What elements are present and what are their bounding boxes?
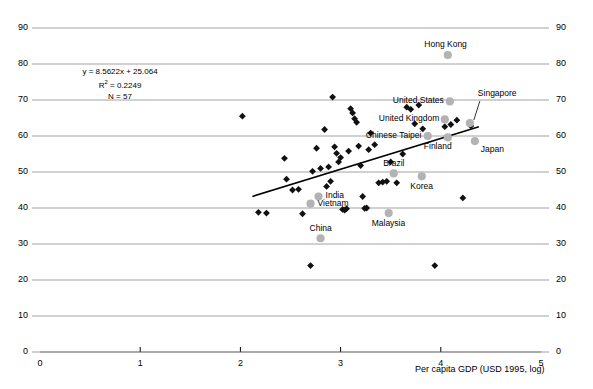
regression-equation: y = 8.5622x + 25.064: [55, 66, 185, 77]
data-point-korea: [418, 172, 426, 180]
data-point-diamond: [355, 143, 362, 150]
label-brazil: Brazil: [383, 159, 404, 168]
y-tick-left-30: 30: [6, 239, 28, 248]
data-point-diamond: [295, 186, 302, 193]
data-point-chinese-taipei: [424, 132, 432, 140]
label-korea: Korea: [410, 182, 433, 191]
data-point-diamond: [441, 123, 448, 130]
data-point-diamond: [365, 146, 372, 153]
y-tick-right-10: 10: [556, 311, 578, 320]
y-tick-left-60: 60: [6, 131, 28, 140]
data-point-hong-kong: [444, 51, 452, 59]
y-tick-right-90: 90: [556, 23, 578, 32]
y-tick-left-50: 50: [6, 167, 28, 176]
y-tick-right-0: 0: [556, 347, 578, 356]
x-tick-3: 3: [331, 359, 351, 368]
data-point-diamond: [323, 183, 330, 190]
data-point-malaysia: [385, 209, 393, 217]
data-point-diamond: [313, 145, 320, 152]
data-point-diamond: [321, 126, 328, 133]
data-point-diamond: [331, 143, 338, 150]
data-point-china: [316, 234, 324, 242]
data-point-diamond: [307, 262, 314, 269]
r-squared-line: R2 = 0.2249: [55, 77, 185, 91]
data-point-diamond: [263, 210, 270, 217]
y-tick-right-70: 70: [556, 95, 578, 104]
data-point-diamond: [289, 187, 296, 194]
x-tick-1: 1: [130, 359, 150, 368]
y-tick-left-70: 70: [6, 95, 28, 104]
label-china: China: [310, 224, 332, 233]
data-point-diamond: [459, 195, 466, 202]
data-point-diamond: [281, 155, 288, 162]
data-point-diamond: [299, 210, 306, 217]
data-point-diamond: [325, 164, 332, 171]
data-point-diamond: [317, 165, 324, 172]
regression-annotation: y = 8.5622x + 25.064 R2 = 0.2249 N = 57: [55, 66, 185, 102]
y-tick-left-20: 20: [6, 275, 28, 284]
label-united-kingdom: United Kingdom: [379, 114, 439, 123]
callout-leader-lines: [474, 101, 480, 120]
data-point-finland: [444, 133, 452, 141]
data-point-diamond: [329, 94, 336, 101]
data-point-diamond: [333, 150, 340, 157]
x-tick-2: 2: [230, 359, 250, 368]
y-tick-right-30: 30: [556, 239, 578, 248]
label-united-states: United States: [393, 96, 444, 105]
label-chinese-taipei: Chinese Taipei: [366, 131, 422, 140]
data-point-diamond: [255, 209, 262, 216]
label-malaysia: Malaysia: [372, 219, 406, 228]
y-tick-left-90: 90: [6, 23, 28, 32]
label-finland: Finland: [424, 142, 452, 151]
data-point-brazil: [390, 169, 398, 177]
y-tick-right-40: 40: [556, 203, 578, 212]
data-point-diamond: [239, 113, 246, 120]
y-tick-right-50: 50: [556, 167, 578, 176]
label-singapore: Singapore: [478, 89, 517, 98]
sample-size: N = 57: [55, 91, 185, 102]
x-axis-ticks: [140, 347, 441, 352]
y-tick-right-80: 80: [556, 59, 578, 68]
label-japan: Japan: [481, 145, 504, 154]
scatter-chart: 0102030405060708090 0102030405060708090 …: [0, 0, 593, 389]
y-tick-left-40: 40: [6, 203, 28, 212]
data-point-diamond: [393, 179, 400, 186]
x-axis-title: Per capita GDP (USD 1995, log): [415, 365, 544, 374]
data-point-diamond: [345, 148, 352, 155]
r-squared-value: = 0.2249: [108, 81, 142, 90]
data-point-diamond: [309, 168, 316, 175]
data-point-diamond: [447, 121, 454, 128]
data-point-vietnam: [306, 200, 314, 208]
data-point-japan: [471, 137, 479, 145]
data-point-united-kingdom: [441, 115, 449, 123]
y-tick-left-80: 80: [6, 59, 28, 68]
data-point-diamond: [453, 117, 460, 124]
y-tick-right-60: 60: [556, 131, 578, 140]
plot-area: [0, 0, 593, 389]
data-point-diamond: [431, 262, 438, 269]
data-point-united-states: [446, 97, 454, 105]
data-point-diamond: [371, 141, 378, 148]
data-point-diamond: [359, 193, 366, 200]
data-point-singapore: [466, 119, 474, 127]
y-tick-right-20: 20: [556, 275, 578, 284]
y-tick-left-0: 0: [6, 347, 28, 356]
data-point-diamond: [327, 178, 334, 185]
data-point-diamond: [283, 176, 290, 183]
label-vietnam: Vietnam: [318, 199, 349, 208]
label-hong-kong: Hong Kong: [424, 40, 467, 49]
x-tick-0: 0: [30, 359, 50, 368]
y-tick-left-10: 10: [6, 311, 28, 320]
